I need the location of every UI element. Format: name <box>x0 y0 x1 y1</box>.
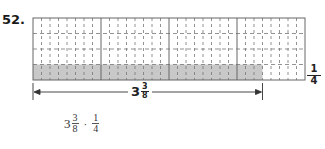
shaded-region <box>33 65 263 81</box>
term1-fraction: 3 8 <box>72 113 79 134</box>
row-fraction-label: 1 4 <box>307 64 321 86</box>
multiply-operator: · <box>84 118 88 130</box>
area-model-diagram <box>0 0 325 149</box>
term1-whole: 3 <box>64 116 71 132</box>
term2-fraction: 1 4 <box>92 113 99 134</box>
length-label: 3 3 8 <box>128 83 152 100</box>
multiplication-expression: 3 3 8 · 1 4 <box>64 113 100 134</box>
